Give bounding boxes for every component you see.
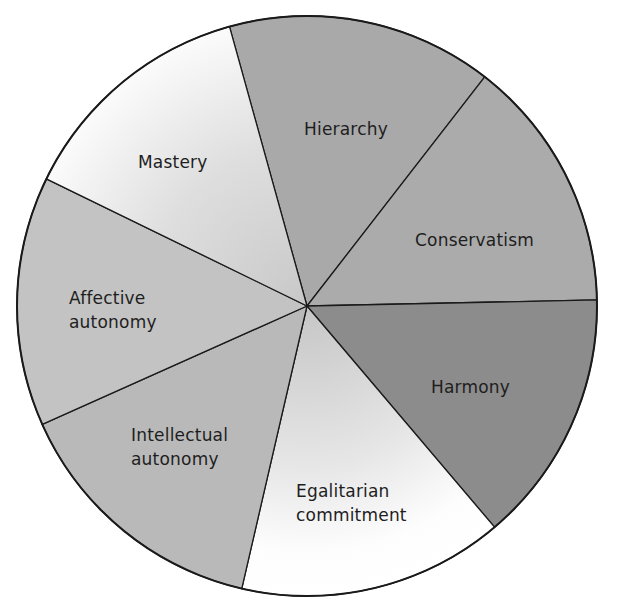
label-conservatism-text: Conservatism	[415, 230, 534, 250]
label-intellectual-line1: Intellectual	[131, 423, 228, 447]
label-mastery: Mastery	[138, 150, 208, 174]
label-harmony-text: Harmony	[431, 377, 510, 397]
label-affective-autonomy: Affective autonomy	[69, 286, 157, 334]
label-hierarchy-text: Hierarchy	[304, 119, 388, 139]
label-hierarchy: Hierarchy	[304, 117, 388, 141]
label-egalitarian-commitment: Egalitarian commitment	[296, 479, 407, 527]
label-affective-line2: autonomy	[69, 310, 157, 334]
label-intellectual-autonomy: Intellectual autonomy	[131, 423, 228, 471]
label-conservatism: Conservatism	[415, 228, 534, 252]
label-affective-line1: Affective	[69, 286, 157, 310]
label-intellectual-line2: autonomy	[131, 447, 228, 471]
label-egalitarian-line2: commitment	[296, 503, 407, 527]
label-egalitarian-line1: Egalitarian	[296, 479, 407, 503]
label-mastery-text: Mastery	[138, 152, 208, 172]
label-harmony: Harmony	[431, 375, 510, 399]
